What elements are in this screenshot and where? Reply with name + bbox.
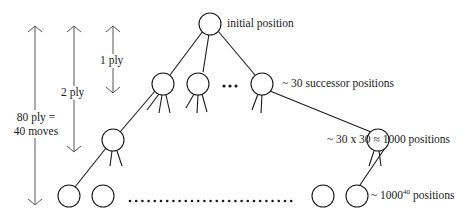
edge	[360, 148, 385, 185]
leaf-node	[312, 185, 334, 207]
level1-node	[187, 73, 209, 95]
level1-node	[251, 73, 273, 95]
leaf-row-ellipsis	[129, 200, 293, 203]
branch-stubs	[186, 94, 207, 113]
level2-label: ~ 30 x 30 ≈ 1000 positions	[327, 134, 450, 146]
level1-node	[152, 73, 174, 95]
root-node	[199, 13, 221, 35]
level1-ellipsis	[222, 84, 237, 87]
two-ply-label: 2 ply	[61, 86, 84, 100]
leaf-node	[58, 185, 80, 207]
leaves-label-prefix: ~ 1000	[371, 189, 403, 201]
edge	[270, 91, 371, 132]
edge	[203, 34, 209, 72]
leaf-node	[346, 185, 368, 207]
branch-stubs	[110, 151, 122, 166]
level1-label: ~ 30 successor positions	[282, 78, 394, 90]
game-tree-diagram	[0, 0, 463, 215]
level2-node	[102, 129, 124, 151]
leaves-label-suffix: positions	[410, 189, 454, 201]
edge	[170, 31, 203, 75]
leaf-node	[92, 185, 114, 207]
edge	[120, 91, 155, 132]
edge	[218, 31, 255, 75]
leaves-label: ~ 100040 positions	[371, 190, 455, 202]
branch-stubs	[252, 94, 262, 113]
full-game-label-line1: 80 ply =	[10, 110, 62, 124]
one-ply-label: 1 ply	[100, 54, 123, 68]
full-game-label-line2: 40 moves	[10, 124, 62, 138]
full-game-label: 80 ply = 40 moves	[10, 110, 62, 138]
edge	[75, 148, 106, 187]
root-label: initial position	[227, 18, 294, 30]
